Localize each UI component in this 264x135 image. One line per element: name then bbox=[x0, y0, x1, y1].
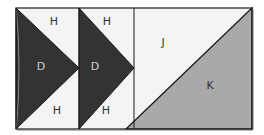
label-d1: D bbox=[37, 60, 45, 73]
quilt-block-diagram: H D H H D H J K bbox=[0, 0, 264, 135]
label-h4: H bbox=[102, 104, 110, 117]
label-d2: D bbox=[91, 60, 99, 73]
label-k: K bbox=[206, 79, 214, 92]
label-j: J bbox=[160, 36, 164, 49]
label-h2: H bbox=[53, 104, 61, 117]
label-h1: H bbox=[50, 15, 58, 28]
label-h3: H bbox=[103, 15, 111, 28]
